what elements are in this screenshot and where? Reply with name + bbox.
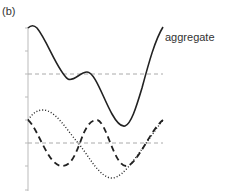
dotted-component-curve bbox=[28, 110, 163, 178]
aggregate-label: aggregate bbox=[165, 31, 215, 43]
chart-plot bbox=[0, 0, 229, 195]
